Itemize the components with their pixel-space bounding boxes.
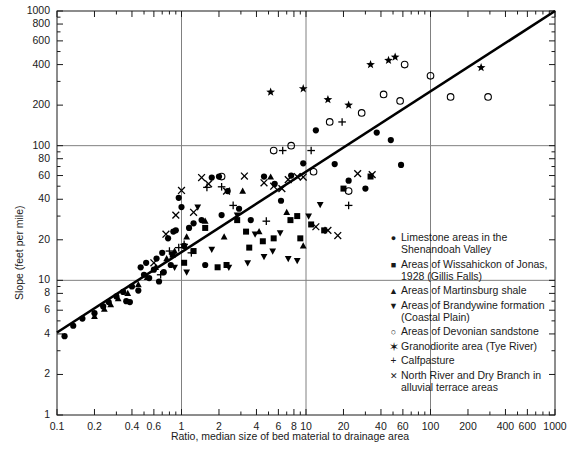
data-point-series-0: [173, 227, 179, 233]
x-tick-label: 0.2: [74, 420, 114, 432]
y-tick-label: 1000: [16, 4, 50, 16]
data-point-series-0: [374, 130, 380, 136]
y-tick-label: 1: [16, 408, 50, 420]
data-point-series-0: [248, 217, 254, 223]
data-point-series-0: [156, 278, 162, 284]
data-point-series-0: [178, 204, 184, 210]
data-point-series-5: [477, 63, 486, 71]
data-point-series-0: [209, 174, 215, 180]
data-point-series-5: [324, 95, 333, 103]
legend-item: +Calfpasture: [386, 354, 578, 366]
data-point-series-0: [332, 161, 338, 167]
legend-item: ■Areas of Wissahickon of Jonas,1928 (Gil…: [386, 258, 578, 282]
x-tick-label: 1: [162, 420, 202, 432]
legend-item: ▼Areas of Brandywine formation(Coastal P…: [386, 299, 578, 323]
data-point-series-1: [246, 245, 252, 251]
y-tick-label: 6: [16, 303, 50, 315]
data-point-series-4: [397, 98, 404, 105]
legend-marker-icon: ▼: [386, 300, 401, 312]
data-point-series-0: [127, 299, 133, 305]
x-tick-label: 10: [286, 420, 326, 432]
legend-label: Areas of Brandywine formation(Coastal Pl…: [401, 299, 545, 323]
legend-label: Granodiorite area (Tye River): [401, 340, 537, 352]
data-point-series-0: [288, 172, 294, 178]
data-point-series-1: [215, 264, 221, 270]
x-tick-label: 2: [199, 420, 239, 432]
data-point-series-1: [297, 235, 303, 241]
legend-label: Limestone areas in theShenandoah Valley: [401, 231, 507, 255]
legend-marker-icon: ▲: [386, 285, 401, 297]
data-point-series-1: [181, 260, 187, 266]
data-point-series-3: [252, 232, 259, 238]
data-point-series-0: [278, 198, 284, 204]
data-point-series-3: [317, 202, 324, 208]
x-tick-label: 20: [323, 420, 363, 432]
data-point-series-0: [398, 162, 404, 168]
data-point-series-0: [346, 178, 352, 184]
data-point-series-0: [313, 127, 319, 133]
data-point-series-0: [261, 173, 267, 179]
legend-item: ✕North River and Dry Branch inalluvial t…: [386, 369, 578, 393]
data-point-series-1: [260, 238, 266, 244]
data-point-series-3: [294, 258, 301, 264]
data-point-series-0: [388, 137, 394, 143]
legend-marker-icon: ✶: [386, 341, 401, 353]
data-point-series-4: [447, 94, 454, 101]
data-point-series-3: [285, 256, 292, 262]
data-point-series-3: [183, 270, 190, 276]
y-tick-label: 2: [16, 367, 50, 379]
data-point-series-2: [283, 209, 290, 215]
x-tick-label: 1000: [535, 420, 575, 432]
chart-figure: Slope (feet per mile) Ratio, median size…: [0, 0, 580, 457]
data-point-series-5: [266, 87, 275, 95]
legend-label: Calfpasture: [401, 354, 455, 366]
y-tick-label: 40: [16, 192, 50, 204]
data-point-series-5: [344, 101, 353, 109]
data-point-series-0: [362, 185, 368, 191]
y-tick-label: 100: [16, 139, 50, 151]
legend-marker-icon: ✕: [386, 370, 401, 382]
legend-marker-icon: ■: [386, 259, 401, 271]
data-point-series-2: [221, 233, 228, 239]
y-tick-label: 200: [16, 98, 50, 110]
y-tick-label: 10: [16, 273, 50, 285]
data-point-series-4: [485, 94, 492, 101]
data-point-series-3: [261, 254, 268, 260]
legend-item: ✶Granodiorite area (Tye River): [386, 340, 578, 352]
data-point-series-1: [243, 229, 249, 235]
y-tick-label: 800: [16, 17, 50, 29]
data-point-series-0: [143, 260, 149, 266]
data-point-series-0: [176, 195, 182, 201]
data-point-series-0: [225, 188, 231, 194]
data-point-series-4: [358, 110, 365, 117]
data-point-series-0: [186, 225, 192, 231]
data-point-series-0: [202, 262, 208, 268]
data-point-series-1: [271, 235, 277, 241]
x-tick-label: 100: [411, 420, 451, 432]
data-point-series-3: [277, 230, 284, 236]
data-point-series-4: [326, 119, 333, 126]
legend-label: Areas of Martinsburg shale: [401, 284, 526, 296]
y-tick-label: 20: [16, 233, 50, 245]
legend-label: Areas of Wissahickon of Jonas,1928 (Gill…: [401, 258, 547, 282]
data-point-series-3: [208, 247, 215, 253]
x-tick-label: 200: [448, 420, 488, 432]
data-point-series-4: [380, 91, 387, 98]
data-point-series-1: [287, 217, 293, 223]
data-point-series-5: [384, 56, 393, 64]
data-point-series-2: [183, 233, 190, 239]
data-point-series-0: [219, 212, 225, 218]
x-tick-label: 0.1: [37, 420, 77, 432]
data-point-series-3: [171, 265, 178, 271]
legend-item: ○Areas of Devonian sandstone: [386, 325, 578, 337]
data-point-series-0: [190, 220, 196, 226]
data-point-series-4: [401, 61, 408, 68]
data-point-series-2: [239, 187, 246, 193]
legend-item: ●Limestone areas in theShenandoah Valley: [386, 231, 578, 255]
legend-marker-icon: ○: [386, 326, 401, 338]
data-point-series-0: [236, 206, 242, 212]
y-tick-label: 400: [16, 58, 50, 70]
data-point-series-1: [294, 213, 300, 219]
legend-marker-icon: +: [386, 355, 401, 367]
data-point-series-0: [300, 160, 306, 166]
